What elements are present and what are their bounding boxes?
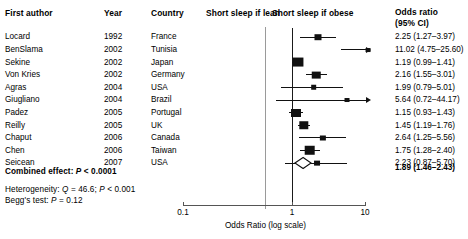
study-year-cell: 2004 [104,83,122,92]
study-author-cell: Locard [5,32,30,41]
study-country-cell: Tunisia [151,45,177,54]
study-or-cell: 2.25 (1.27–3.97) [395,32,455,41]
study-author-cell: Sekine [5,58,30,67]
study-point-estimate-marker [366,48,371,52]
column-header-country: Country [151,9,184,18]
study-or-cell: 1.19 (0.99–1.41) [395,58,455,67]
study-point-estimate-marker [314,34,321,40]
x-axis-line [183,205,366,206]
heterogeneity-q-value: = 46.6; [71,185,97,194]
study-point-estimate-marker [299,121,308,129]
study-year-cell: 2005 [104,121,122,130]
study-author-cell: Reilly [5,121,25,130]
confidence-interval-line [299,137,346,138]
summary-effect-diamond [294,156,312,169]
summary-odds-ratio-cell: 1.89 (1.46–2.43) [395,163,455,172]
heterogeneity-label: Heterogeneity: [5,185,60,194]
ci-overflow-arrow-icon [366,47,371,53]
study-or-cell: 11.02 (4.75–25.60) [395,45,464,54]
study-point-estimate-marker [312,71,321,78]
x-axis-tick-label: 1 [290,208,295,217]
study-year-cell: 2004 [104,95,122,104]
confidence-interval-line [276,100,366,101]
study-country-cell: Germany [151,70,185,79]
beggs-test-line: Begg's test: P = 0.12 [5,196,83,205]
study-year-cell: 2002 [104,70,122,79]
heterogeneity-q-symbol: Q [62,185,68,194]
x-axis-tick [292,202,293,206]
study-year-cell: 2005 [104,108,122,117]
x-axis-tick [183,202,184,206]
column-header-year: Year [104,9,122,18]
study-year-cell: 2006 [104,146,122,155]
study-year-cell: 2002 [104,45,122,54]
study-or-cell: 1.75 (1.28–2.40) [395,146,455,155]
study-author-cell: Chen [5,146,25,155]
confidence-interval-line [306,74,327,75]
x-axis-title: Odds Ratio (log scale) [225,221,306,230]
study-or-cell: 5.64 (0.72–44.17) [395,95,460,104]
study-point-estimate-marker [304,146,315,154]
study-country-cell: Canada [151,133,180,142]
study-point-estimate-marker [314,161,320,166]
x-axis-tick-label: 0.1 [177,208,188,217]
study-year-cell: 2002 [104,58,122,67]
study-author-cell: Padez [5,108,28,117]
study-country-cell: Taiwan [151,146,177,155]
column-divider-rule [265,27,266,209]
column-header-odds-ratio-ci: (95% CI) [395,19,429,28]
column-header-first-author: First author [5,9,53,18]
confidence-interval-line [281,87,343,88]
confidence-interval-line [292,62,303,63]
heterogeneity-line: Heterogeneity: Q = 46.6; P < 0.001 [5,185,135,194]
study-year-cell: 2006 [104,133,122,142]
null-effect-reference-line [292,28,293,202]
heterogeneity-p-value: < 0.001 [107,185,135,194]
study-author-cell: Giugliano [5,95,40,104]
study-author-cell: Agras [5,83,26,92]
x-axis-tick-label: 10 [360,208,369,217]
study-country-cell: Japan [151,58,173,67]
study-author-cell: Chaput [5,133,31,142]
x-axis-tick [365,202,366,206]
study-author-cell: Von Kries [5,70,40,79]
confidence-interval-line [341,49,366,50]
confidence-interval-line [300,150,320,151]
confidence-interval-line [285,163,347,164]
study-point-estimate-marker [292,58,303,67]
study-country-cell: Brazil [151,95,171,104]
study-country-cell: USA [151,83,168,92]
ci-overflow-arrow-icon [366,97,371,103]
beggs-test-label: Begg's test: [5,196,49,205]
study-point-estimate-marker [311,85,317,90]
beggs-test-p-value: = 0.12 [59,196,83,205]
forest-plot-figure: First author Year Country Odds ratio (95… [0,0,468,239]
study-or-cell: 1.45 (1.19–1.76) [395,121,455,130]
heterogeneity-p-symbol: P [99,185,105,194]
plot-header-right-favours: Short sleep if obese [272,9,354,18]
confidence-interval-line [289,112,304,113]
combined-effect-p-value: < 0.0001 [84,167,117,176]
study-country-cell: Portugal [151,108,182,117]
study-or-cell: 1.99 (0.79–5.01) [395,83,455,92]
beggs-test-p-symbol: P [51,196,57,205]
study-country-cell: France [151,32,176,41]
column-header-odds-ratio: Odds ratio [395,8,438,17]
plot-header-left-favours: Short sleep if lean [206,9,280,18]
confidence-interval-line [298,125,310,126]
study-or-cell: 2.64 (1.25–5.56) [395,133,455,142]
combined-effect-label: Combined effect: [5,167,73,176]
study-author-cell: BenSlama [5,45,43,54]
combined-effect-p-symbol: P [76,167,82,176]
confidence-interval-line [300,37,336,38]
study-year-cell: 1992 [104,32,122,41]
study-or-cell: 2.16 (1.55–3.01) [395,70,455,79]
study-or-cell: 1.15 (0.93–1.43) [395,108,455,117]
study-country-cell: UK [151,121,162,130]
study-country-cell: USA [151,158,168,167]
combined-effect-line: Combined effect: P < 0.0001 [5,167,117,176]
study-point-estimate-marker [344,98,349,102]
study-point-estimate-marker [320,135,326,140]
